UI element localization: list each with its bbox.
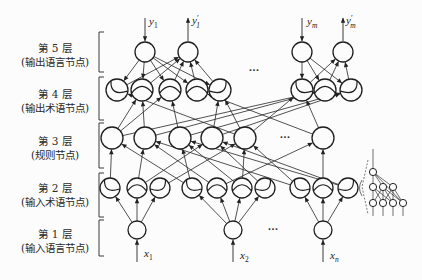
connection-arrow: [118, 100, 136, 129]
connection-arrow: [220, 146, 257, 181]
zoom-guide-dashed: [362, 160, 368, 214]
layer-5-title: 第 5 层: [38, 42, 71, 54]
output-linguistic-node: [135, 42, 155, 62]
node-circle: [312, 127, 334, 149]
input-term-node: [232, 178, 252, 198]
rule-node: [201, 127, 223, 149]
output-label: y1: [148, 15, 158, 30]
layer-3-title: 第 3 层: [38, 135, 71, 147]
node-circle: [100, 178, 120, 198]
node-circle: [182, 178, 202, 198]
connection-arrow: [243, 150, 245, 179]
node-detail-inset: [360, 149, 407, 216]
connection-arrow: [239, 196, 259, 222]
input-linguistic-node: [224, 221, 242, 239]
input-term-node: [313, 178, 333, 198]
inset-node: [369, 183, 376, 190]
inset-node: [399, 199, 406, 206]
layer-labels: 第 5 层 (输出语言节点) 第 4 层 (输出术语节点) 第 3 层 (规则节…: [21, 42, 89, 254]
output-label: ym: [306, 15, 318, 30]
network-diagram: 第 5 层 (输出语言节点) 第 4 层 (输出术语节点) 第 3 层 (规则节…: [0, 0, 422, 280]
input-term-node: [338, 178, 358, 198]
node-circle: [255, 178, 275, 198]
output-term-node: [159, 79, 181, 101]
input-linguistic-node: [128, 221, 146, 239]
output-term-node: [186, 79, 208, 101]
input-term-node: [150, 178, 170, 198]
input-term-node: [255, 178, 275, 198]
node-circle: [291, 79, 313, 101]
node-circle: [224, 221, 242, 239]
connection-arrow: [199, 196, 226, 224]
connection-arrow: [172, 101, 178, 127]
node-circle: [340, 79, 362, 101]
connection-arrow: [139, 149, 144, 178]
node-circle: [135, 42, 155, 62]
input-label: x1: [143, 247, 153, 262]
output-term-node: [131, 79, 153, 101]
node-circle: [178, 42, 198, 62]
node-circle: [201, 127, 223, 149]
rule-node: [101, 127, 123, 149]
connection-arrow: [328, 197, 343, 222]
connection-arrow: [124, 60, 139, 81]
connection-arrow: [189, 145, 234, 182]
input-label: x2: [239, 249, 249, 264]
input-linguistic-node: [314, 221, 332, 239]
layer-bracket-5: [99, 32, 104, 72]
node-circle: [292, 42, 312, 62]
connection-arrow: [345, 62, 349, 79]
output-term-node: [314, 79, 336, 101]
node-circle: [314, 221, 332, 239]
layer-bracket-1: [99, 220, 104, 256]
node-circle: [169, 127, 191, 149]
inset-node: [389, 183, 396, 190]
layer-bracket-4: [99, 77, 104, 120]
layer-3-description: (规则节点): [31, 149, 79, 161]
connection-arrow: [305, 197, 319, 222]
rule-node: [134, 127, 156, 149]
inset-node: [379, 183, 386, 190]
connection-arrow: [190, 62, 194, 79]
input-label: xn: [329, 249, 339, 264]
ellipsis-mark: ···: [268, 224, 278, 234]
layer-1-description: (输入语言节点): [21, 242, 89, 254]
connection-arrow: [225, 100, 240, 128]
connection-arrow: [307, 101, 319, 128]
output-term-node: [291, 79, 313, 101]
node-circle: [290, 178, 310, 198]
ellipsis-mark: ···: [280, 132, 290, 142]
node-circle: [134, 127, 156, 149]
rule-node: [312, 127, 334, 149]
output-label: y′m: [345, 14, 356, 30]
output-linguistic-node: [178, 42, 198, 62]
connection-arrow: [254, 146, 293, 182]
inset-node: [369, 168, 376, 175]
input-term-node: [182, 178, 202, 198]
zoom-brace: [360, 180, 363, 196]
layer-4-title: 第 4 层: [38, 88, 71, 100]
node-circle: [150, 178, 170, 198]
ellipsis-marks: ·········: [249, 65, 290, 234]
rule-node: [169, 127, 191, 149]
output-term-node: [106, 79, 128, 101]
input-term-node: [127, 178, 147, 198]
input-term-node: [290, 178, 310, 198]
connection-arrow: [154, 145, 208, 183]
layer-2-description: (输入术语节点): [21, 196, 89, 208]
connection-arrow: [116, 197, 132, 223]
layer-4-description: (输出术语节点): [21, 102, 89, 114]
inset-node: [369, 199, 376, 206]
ellipsis-mark: ···: [249, 65, 259, 75]
input-term-node: [207, 178, 227, 198]
layer-2-title: 第 2 层: [38, 182, 71, 194]
fuzzy-neural-network-figure: 第 5 层 (输出语言节点) 第 4 层 (输出术语节点) 第 3 层 (规则节…: [0, 0, 422, 280]
node-circle: [128, 221, 146, 239]
layer-5-description: (输出语言节点): [21, 56, 89, 68]
connection-arrow: [221, 198, 230, 222]
node-circle: [333, 42, 353, 62]
layer-1-title: 第 1 层: [38, 228, 71, 240]
output-linguistic-node: [292, 42, 312, 62]
node-circle: [234, 127, 256, 149]
output-label: y′1: [191, 14, 200, 30]
